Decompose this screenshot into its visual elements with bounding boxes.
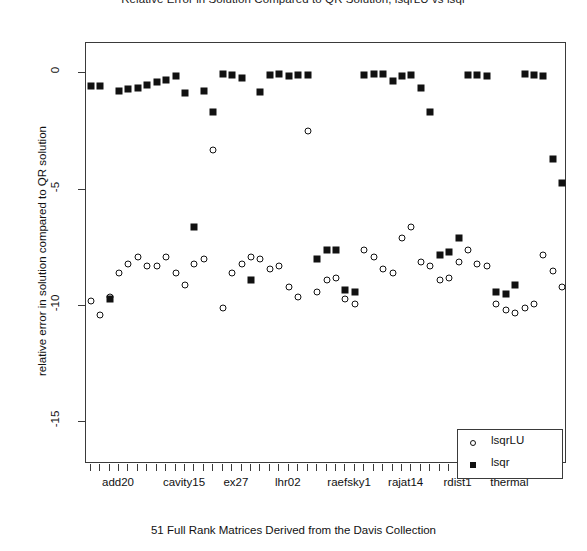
data-point-lsqrLU: [427, 263, 434, 270]
data-point-lsqrLU: [436, 277, 443, 284]
x-tick-mark: [354, 464, 355, 471]
x-tick-mark: [401, 464, 402, 471]
x-tick-mark: [203, 464, 204, 471]
x-tick-mark: [250, 464, 251, 471]
x-tick-mark: [90, 464, 91, 471]
x-tick-mark: [241, 464, 242, 471]
data-point-lsqrLU: [257, 256, 264, 263]
data-point-lsqrLU: [153, 263, 160, 270]
legend: lsqrLU lsqr: [457, 429, 563, 479]
data-point-lsqrLU: [238, 260, 245, 267]
data-point-lsqrLU: [125, 260, 132, 267]
data-point-lsqrLU: [200, 256, 207, 263]
data-point-lsqr: [342, 286, 349, 293]
data-point-lsqr: [219, 71, 226, 78]
data-point-lsqr: [332, 247, 339, 254]
x-tick-mark: [344, 464, 345, 471]
data-point-lsqrLU: [172, 270, 179, 277]
data-point-lsqr: [87, 83, 94, 90]
data-point-lsqr: [493, 288, 500, 295]
data-point-lsqrLU: [332, 274, 339, 281]
x-axis-label: 51 Full Rank Matrices Derived from the D…: [0, 524, 587, 536]
data-point-lsqr: [370, 71, 377, 78]
x-tick-mark: [212, 464, 213, 471]
x-tick-label: ex27: [223, 476, 248, 488]
data-point-lsqr: [446, 249, 453, 256]
x-tick-mark: [307, 464, 308, 471]
data-point-lsqrLU: [210, 146, 217, 153]
data-point-lsqr: [549, 156, 556, 163]
data-point-lsqr: [427, 108, 434, 115]
x-tick-mark: [373, 464, 374, 471]
y-tick-mark: [78, 189, 85, 190]
x-tick-mark: [278, 464, 279, 471]
data-point-lsqr: [540, 72, 547, 79]
data-point-lsqr: [512, 281, 519, 288]
data-point-lsqrLU: [285, 284, 292, 291]
data-point-lsqrLU: [483, 263, 490, 270]
data-point-lsqr: [153, 79, 160, 86]
x-tick-mark: [222, 464, 223, 471]
data-point-lsqr: [257, 88, 264, 95]
data-point-lsqr: [116, 87, 123, 94]
y-tick-mark: [78, 421, 85, 422]
data-point-lsqrLU: [493, 300, 500, 307]
data-point-lsqr: [314, 256, 321, 263]
data-point-lsqr: [521, 71, 528, 78]
data-point-lsqrLU: [144, 263, 151, 270]
data-point-lsqr: [248, 277, 255, 284]
data-point-lsqr: [106, 295, 113, 302]
data-point-lsqr: [172, 72, 179, 79]
data-point-lsqrLU: [521, 305, 528, 312]
x-tick-label: add20: [102, 476, 134, 488]
x-tick-mark: [109, 464, 110, 471]
data-point-lsqr: [436, 251, 443, 258]
data-point-lsqr: [559, 179, 566, 186]
data-point-lsqrLU: [474, 260, 481, 267]
x-tick-mark: [382, 464, 383, 471]
data-point-lsqrLU: [455, 258, 462, 265]
data-point-lsqr: [502, 291, 509, 298]
data-point-lsqr: [200, 87, 207, 94]
x-tick-mark: [326, 464, 327, 471]
data-point-lsqr: [134, 84, 141, 91]
data-point-lsqr: [182, 90, 189, 97]
x-tick-label: cavity15: [163, 476, 205, 488]
x-tick-mark: [439, 464, 440, 471]
y-tick-mark: [78, 72, 85, 73]
legend-label: lsqrLU: [491, 434, 524, 446]
data-point-lsqrLU: [464, 247, 471, 254]
y-axis-label: relative error in solution compared to Q…: [36, 91, 48, 411]
data-point-lsqr: [380, 71, 387, 78]
data-point-lsqrLU: [182, 281, 189, 288]
x-tick-mark: [146, 464, 147, 471]
x-tick-mark: [448, 464, 449, 471]
data-point-lsqrLU: [540, 251, 547, 258]
x-tick-mark: [316, 464, 317, 471]
data-point-lsqr: [285, 72, 292, 79]
scatter-plot-figure: Relative Error in Solution Compared to Q…: [0, 0, 587, 551]
data-point-lsqrLU: [398, 235, 405, 242]
data-point-lsqr: [304, 72, 311, 79]
data-point-lsqrLU: [116, 270, 123, 277]
data-point-lsqr: [125, 86, 132, 93]
plot-area: [85, 42, 566, 463]
x-tick-mark: [127, 464, 128, 471]
data-point-lsqr: [361, 71, 368, 78]
x-tick-mark: [137, 464, 138, 471]
data-point-lsqrLU: [229, 270, 236, 277]
data-point-lsqrLU: [530, 300, 537, 307]
data-point-lsqrLU: [97, 312, 104, 319]
legend-entry-lsqr: lsqr: [458, 455, 564, 477]
data-point-lsqrLU: [502, 307, 509, 314]
data-point-lsqrLU: [219, 305, 226, 312]
data-point-lsqr: [398, 72, 405, 79]
x-tick-mark: [99, 464, 100, 471]
data-point-lsqrLU: [323, 277, 330, 284]
x-tick-label: rajat14: [388, 476, 423, 488]
data-point-lsqrLU: [342, 295, 349, 302]
x-tick-mark: [392, 464, 393, 471]
y-tick-mark: [78, 305, 85, 306]
x-tick-mark: [259, 464, 260, 471]
data-point-lsqr: [229, 71, 236, 78]
